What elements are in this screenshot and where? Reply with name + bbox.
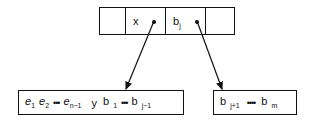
- item-y: y: [92, 97, 98, 109]
- right-subtree-box: bj+1 •••• bm: [213, 90, 297, 115]
- item-en-1: en−1: [64, 95, 82, 109]
- ellipsis: •••: [121, 98, 127, 108]
- arrow-x-to-left-box: [126, 21, 154, 89]
- item-b1: b1: [103, 95, 117, 109]
- ellipsis: •••: [53, 98, 59, 108]
- ellipsis: ••••: [247, 98, 256, 108]
- item-e2: e2: [39, 95, 49, 109]
- item-bj-1: bj−1: [132, 95, 152, 109]
- item-e1: e1: [25, 95, 35, 109]
- item-bm: bm: [261, 95, 277, 109]
- item-bj+1: bj+1: [220, 95, 240, 109]
- left-subtree-box: e1 e2 ••• en−1 y b1 ••• bj−1: [18, 90, 184, 115]
- arrow-bj-to-right-box: [197, 21, 222, 89]
